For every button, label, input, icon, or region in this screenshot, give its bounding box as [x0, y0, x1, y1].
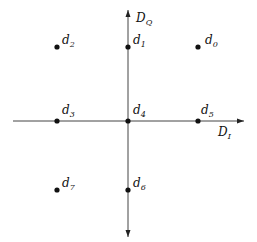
svg-text:d1: d1 [133, 33, 146, 49]
horizontal-axis-label: DI [217, 125, 232, 141]
svg-text:d0: d0 [205, 33, 218, 49]
svg-text:d7: d7 [62, 176, 76, 192]
vertical-axis-label: DQ [135, 11, 153, 27]
point-d0: d0 [195, 33, 217, 50]
svg-text:d6: d6 [133, 176, 146, 192]
point-d2: d2 [54, 33, 74, 50]
svg-text:d5: d5 [201, 103, 214, 119]
svg-text:d2: d2 [62, 33, 75, 49]
constellation-diagram: DQ DI d0 d1 d2 d3 d4 d5 d6 d7 [0, 0, 257, 242]
svg-text:d4: d4 [133, 103, 146, 119]
point-d7: d7 [54, 176, 75, 193]
svg-text:d3: d3 [62, 103, 75, 119]
